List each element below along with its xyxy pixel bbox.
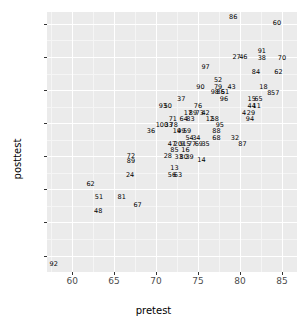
gridline-minor-vertical bbox=[135, 12, 136, 272]
gridline-minor-horizontal bbox=[47, 206, 297, 207]
data-point-label: 24 bbox=[126, 171, 134, 178]
plot-panel: 8660912746387097846252907943189885618573… bbox=[47, 12, 297, 272]
data-point-label: 87 bbox=[238, 141, 246, 148]
data-point-label: 83 bbox=[186, 115, 194, 122]
x-axis-tick-mark bbox=[282, 272, 283, 275]
data-point-label: 36 bbox=[147, 128, 155, 135]
gridline-minor-vertical bbox=[51, 12, 52, 272]
data-point-label: 28 bbox=[164, 153, 172, 160]
gridline-major-horizontal bbox=[47, 256, 297, 257]
x-axis-tick-label: 70 bbox=[150, 276, 161, 286]
data-point-label: 57 bbox=[271, 89, 279, 96]
data-point-label: 38 bbox=[258, 54, 266, 61]
gridline-minor-horizontal bbox=[47, 40, 297, 41]
data-point-label: 60 bbox=[273, 19, 281, 26]
gridline-minor-vertical bbox=[93, 12, 94, 272]
data-point-label: 48 bbox=[94, 207, 102, 214]
x-axis-tick-mark bbox=[156, 272, 157, 275]
x-axis-tick-label: 65 bbox=[108, 276, 119, 286]
gridline-minor-vertical bbox=[219, 12, 220, 272]
data-point-label: 84 bbox=[252, 68, 260, 75]
gridline-minor-horizontal bbox=[47, 239, 297, 240]
scatter-plot-figure: posttest pretest 86609127463870978462529… bbox=[0, 0, 307, 318]
x-axis-tick-label: 80 bbox=[234, 276, 245, 286]
data-point-label: 35 bbox=[201, 141, 209, 148]
x-axis-tick-label: 75 bbox=[192, 276, 203, 286]
data-point-label: 96 bbox=[220, 96, 228, 103]
x-axis-tick-mark bbox=[240, 272, 241, 275]
data-point-label: 70 bbox=[278, 54, 286, 61]
x-axis-tick-mark bbox=[114, 272, 115, 275]
data-point-label: 97 bbox=[201, 64, 209, 71]
gridline-major-horizontal bbox=[47, 156, 297, 157]
data-point-label: 94 bbox=[246, 115, 254, 122]
data-point-label: 67 bbox=[133, 201, 141, 208]
x-axis-tick-mark bbox=[198, 272, 199, 275]
data-point-label: 37 bbox=[177, 96, 185, 103]
data-point-label: 90 bbox=[196, 84, 204, 91]
gridline-major-horizontal bbox=[47, 24, 297, 25]
x-axis-tick-mark bbox=[72, 272, 73, 275]
data-point-label: 62 bbox=[86, 181, 94, 188]
gridline-major-vertical bbox=[72, 12, 73, 272]
data-point-label: 63 bbox=[174, 172, 182, 179]
data-point-label: 89 bbox=[127, 158, 135, 165]
data-point-label: 92 bbox=[50, 261, 58, 268]
data-point-label: 39 bbox=[185, 154, 193, 161]
data-point-label: 46 bbox=[239, 54, 247, 61]
data-point-label: 50 bbox=[164, 103, 172, 110]
data-point-label: 81 bbox=[118, 194, 126, 201]
gridline-major-horizontal bbox=[47, 189, 297, 190]
data-point-label: 51 bbox=[95, 194, 103, 201]
x-axis-tick-label: 85 bbox=[276, 276, 287, 286]
gridline-major-vertical bbox=[156, 12, 157, 272]
gridline-major-vertical bbox=[114, 12, 115, 272]
y-axis-title: posttest bbox=[12, 114, 23, 204]
data-point-label: 86 bbox=[229, 14, 237, 21]
data-point-label: 62 bbox=[274, 69, 282, 76]
x-axis-title: pretest bbox=[0, 305, 307, 316]
data-point-label: 68 bbox=[212, 134, 220, 141]
x-axis-tick-label: 60 bbox=[66, 276, 77, 286]
data-point-label: 14 bbox=[197, 156, 205, 163]
gridline-major-vertical bbox=[282, 12, 283, 272]
gridline-major-horizontal bbox=[47, 222, 297, 223]
